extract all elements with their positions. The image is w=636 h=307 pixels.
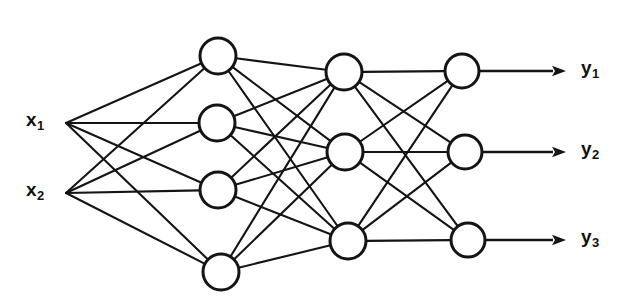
output-label-y3-subscript: 3 bbox=[592, 235, 599, 250]
hidden2-node-1[interactable] bbox=[326, 54, 362, 90]
output-label-y3-base: y bbox=[581, 226, 592, 247]
output-arrow-head bbox=[552, 147, 566, 157]
input-label-x2-base: x bbox=[26, 179, 37, 200]
edge bbox=[66, 190, 200, 193]
edge bbox=[66, 193, 205, 264]
output-node-2[interactable] bbox=[448, 135, 482, 169]
output-label-y2: y2 bbox=[581, 139, 599, 158]
input-label-x1-subscript: 1 bbox=[37, 118, 44, 133]
input-label-x1-base: x bbox=[26, 109, 37, 130]
edge bbox=[362, 162, 451, 230]
output-node-3[interactable] bbox=[451, 223, 485, 257]
hidden1-node-1[interactable] bbox=[200, 38, 236, 74]
output-label-y3: y3 bbox=[581, 227, 599, 246]
edge bbox=[355, 86, 458, 226]
hidden1-node-2[interactable] bbox=[199, 105, 235, 141]
edge bbox=[236, 58, 326, 69]
hidden-layer-2-nodes bbox=[326, 54, 366, 259]
edge bbox=[230, 87, 334, 256]
input-label-x2-subscript: 2 bbox=[37, 188, 44, 203]
output-arrow-head bbox=[552, 235, 566, 245]
neural-network-diagram: x1x2y1y2y3 bbox=[0, 0, 636, 307]
edge bbox=[235, 197, 331, 235]
edge bbox=[358, 85, 453, 226]
output-arrow-head bbox=[552, 66, 566, 76]
output-layer-nodes bbox=[445, 54, 485, 257]
hidden1-node-3[interactable] bbox=[200, 172, 236, 208]
output-arrows bbox=[480, 66, 566, 245]
hidden1-node-4[interactable] bbox=[203, 254, 239, 290]
edge bbox=[66, 131, 201, 193]
edge bbox=[362, 71, 445, 72]
edge bbox=[66, 63, 202, 123]
hidden2-node-2[interactable] bbox=[327, 134, 363, 170]
input-label-x1: x1 bbox=[26, 110, 44, 129]
network-graphics bbox=[0, 0, 636, 307]
hidden2-node-3[interactable] bbox=[330, 223, 366, 259]
edges-input-to-hidden1 bbox=[66, 63, 208, 264]
output-label-y1: y1 bbox=[581, 58, 599, 77]
output-label-y2-base: y bbox=[581, 138, 592, 159]
input-label-x2: x2 bbox=[26, 180, 44, 199]
edge bbox=[366, 240, 451, 241]
edges-hidden1-to-hidden2 bbox=[228, 58, 337, 267]
edges-hidden2-to-output bbox=[355, 71, 458, 241]
output-label-y1-subscript: 1 bbox=[592, 66, 599, 81]
output-label-y2-subscript: 2 bbox=[592, 147, 599, 162]
output-label-y1-base: y bbox=[581, 57, 592, 78]
edge bbox=[238, 245, 330, 267]
output-node-1[interactable] bbox=[445, 54, 479, 88]
